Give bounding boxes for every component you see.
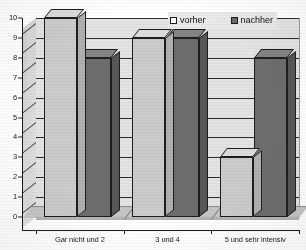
- legend-item-vorher[interactable]: vorher: [170, 16, 206, 25]
- y-axis-tick-mark: [18, 37, 22, 38]
- x-axis-tick-mark: [124, 230, 125, 234]
- y-axis-tick-mark: [18, 18, 22, 19]
- y-axis-tick-mark: [18, 57, 22, 58]
- y-axis-tick-mark: [18, 137, 22, 138]
- y-axis-tick-label: 0: [13, 213, 17, 221]
- x-axis-labels: Gar nicht und 23 und 45 und sehr intensi…: [23, 235, 303, 249]
- x-axis-line: [22, 230, 300, 231]
- y-axis-tick-mark: [18, 197, 22, 198]
- bar-side-face: [77, 11, 86, 217]
- y-axis-tick-label: 5: [13, 114, 17, 122]
- y-axis-tick-mark: [18, 217, 22, 218]
- bar-side-face: [199, 31, 208, 217]
- legend-label-vorher: vorher: [180, 16, 206, 25]
- y-axis-tick-label: 6: [13, 94, 17, 102]
- y-axis-tick-label: 9: [13, 34, 17, 42]
- y-axis-tick-label: 1: [13, 193, 17, 201]
- bar-side-face: [287, 51, 296, 217]
- y-axis-tick-mark: [18, 117, 22, 118]
- bar-vorher-2: [132, 29, 165, 217]
- x-axis-category-label: Gar nicht und 2: [55, 235, 105, 244]
- y-axis-tick-label: 10: [9, 14, 17, 22]
- bar-front-face: [220, 157, 253, 217]
- x-axis-tick-mark: [211, 230, 212, 234]
- y-axis-tick-label: 7: [13, 74, 17, 82]
- y-axis-tick-label: 4: [13, 134, 17, 142]
- plot-left-wall-inner: [27, 20, 33, 224]
- y-axis-tick-label: 2: [13, 173, 17, 181]
- y-axis-labels: 012345678910: [0, 0, 17, 250]
- y-axis-tick-mark: [18, 157, 22, 158]
- bar-front-face: [132, 38, 165, 217]
- bar-vorher-3: [220, 148, 253, 217]
- x-axis-tick-mark: [36, 230, 37, 234]
- x-axis-category-label: 3 und 4: [155, 235, 179, 244]
- y-axis-tick-mark: [18, 97, 22, 98]
- plot-floor-front: [36, 217, 299, 220]
- plot-area: [23, 18, 299, 228]
- legend: vorher nachher: [168, 12, 277, 29]
- x-axis-tick-mark: [299, 230, 300, 234]
- y-axis-tick-mark: [18, 77, 22, 78]
- x-axis-category-label: 5 und sehr intensiv: [225, 235, 286, 244]
- bar-side-face: [111, 51, 120, 217]
- bar-front-face: [44, 18, 77, 217]
- legend-swatch-vorher: [170, 17, 177, 24]
- legend-label-nachher: nachher: [241, 16, 274, 25]
- bar-side-face: [165, 31, 174, 217]
- y-axis-tick-label: 8: [13, 54, 17, 62]
- bar-vorher-1: [44, 9, 77, 217]
- bar-side-face: [253, 150, 262, 217]
- legend-swatch-nachher: [231, 17, 238, 24]
- bar-chart: 012345678910 vorher nachher Gar nicht un…: [0, 0, 306, 250]
- y-axis-tick-label: 3: [13, 154, 17, 162]
- y-axis-tick-mark: [18, 177, 22, 178]
- legend-item-nachher[interactable]: nachher: [231, 16, 274, 25]
